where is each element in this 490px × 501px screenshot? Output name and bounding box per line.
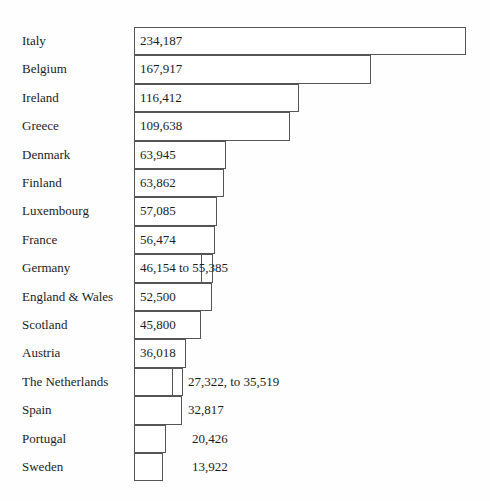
bar-container (134, 396, 182, 424)
chart-row: Spain32,817 (0, 396, 490, 424)
chart-row: England & Wales52,500 (0, 283, 490, 311)
category-label: Denmark (22, 141, 70, 169)
chart-row: Sweden13,922 (0, 453, 490, 481)
category-label: Germany (22, 254, 70, 282)
bar (134, 396, 182, 424)
chart-row: Scotland45,800 (0, 311, 490, 339)
category-label: Scotland (22, 311, 68, 339)
category-label: England & Wales (22, 283, 113, 311)
bar-value-label: 56,474 (140, 226, 176, 254)
bar-container (134, 425, 166, 453)
bar-value-label: 32,817 (188, 396, 224, 424)
chart-row: The Netherlands27,322, to 35,519 (0, 368, 490, 396)
bar-container (134, 368, 183, 396)
bar-chart: Italy234,187Belgium167,917Ireland116,412… (0, 0, 490, 501)
bar-value-label: 46,154 to 55,385 (140, 254, 228, 282)
chart-row: Portugal20,426 (0, 425, 490, 453)
category-label: The Netherlands (22, 368, 108, 396)
chart-row: Denmark63,945 (0, 141, 490, 169)
bar (134, 425, 166, 453)
category-label: France (22, 226, 57, 254)
category-label: Greece (22, 112, 59, 140)
bar-value-label: 57,085 (140, 197, 176, 225)
chart-row: Germany46,154 to 55,385 (0, 254, 490, 282)
bar-value-label: 109,638 (140, 112, 182, 140)
bar-container (134, 27, 466, 55)
category-label: Luxembourg (22, 197, 89, 225)
bar-value-label: 167,917 (140, 55, 182, 83)
bar (134, 27, 466, 55)
bar-value-label: 13,922 (192, 453, 228, 481)
bar-value-label: 63,862 (140, 169, 176, 197)
bar-value-label: 45,800 (140, 311, 176, 339)
category-label: Ireland (22, 84, 59, 112)
category-label: Finland (22, 169, 62, 197)
chart-row: Greece109,638 (0, 112, 490, 140)
bar (134, 453, 163, 481)
category-label: Sweden (22, 453, 63, 481)
chart-row: Belgium167,917 (0, 55, 490, 83)
bar-value-label: 116,412 (140, 84, 182, 112)
chart-row: Ireland116,412 (0, 84, 490, 112)
category-label: Austria (22, 339, 60, 367)
bar-value-label: 52,500 (140, 283, 176, 311)
bar-range-low-marker (134, 368, 173, 396)
bar-value-label: 27,322, to 35,519 (188, 368, 279, 396)
bar-value-label: 63,945 (140, 141, 176, 169)
bar-value-label: 20,426 (192, 425, 228, 453)
chart-row: Italy234,187 (0, 27, 490, 55)
bar-value-label: 36,018 (140, 339, 176, 367)
category-label: Spain (22, 396, 52, 424)
category-label: Belgium (22, 55, 67, 83)
chart-row: Finland63,862 (0, 169, 490, 197)
bar-container (134, 453, 163, 481)
chart-row: France56,474 (0, 226, 490, 254)
category-label: Portugal (22, 425, 66, 453)
bar-value-label: 234,187 (140, 27, 182, 55)
chart-row: Austria36,018 (0, 339, 490, 367)
category-label: Italy (22, 27, 46, 55)
chart-row: Luxembourg57,085 (0, 197, 490, 225)
